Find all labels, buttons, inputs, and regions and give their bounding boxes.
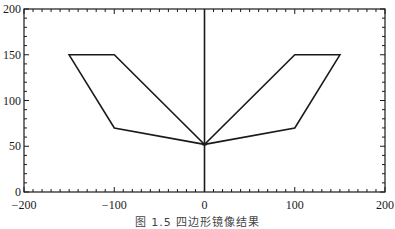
original-quadrilateral-polygon bbox=[69, 55, 204, 145]
x-tick-label: −100 bbox=[102, 198, 127, 212]
tick-labels: −200−1000100200050100150200 bbox=[3, 2, 394, 212]
x-tick-label: 0 bbox=[202, 198, 208, 212]
y-tick-label: 200 bbox=[3, 2, 21, 16]
mirrored-quadrilateral-polygon bbox=[205, 55, 340, 145]
y-tick-label: 150 bbox=[3, 48, 21, 62]
y-tick-label: 100 bbox=[3, 94, 21, 108]
x-tick-label: 200 bbox=[376, 198, 394, 212]
y-tick-label: 50 bbox=[9, 139, 21, 153]
plot-series bbox=[69, 9, 340, 192]
x-tick-label: −200 bbox=[12, 198, 37, 212]
y-tick-label: 0 bbox=[15, 185, 21, 199]
x-tick-label: 100 bbox=[286, 198, 304, 212]
figure-caption: 图 1.5 四边形镜像结果 bbox=[0, 213, 395, 229]
chart-canvas: −200−1000100200050100150200 bbox=[0, 0, 395, 229]
